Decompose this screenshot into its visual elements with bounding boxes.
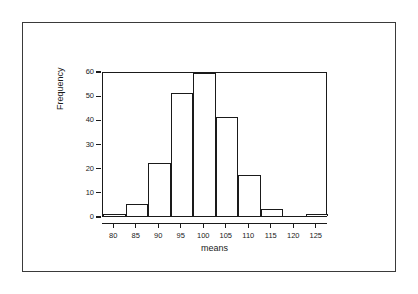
x-axis-tick	[158, 223, 159, 228]
x-axis-tick	[135, 223, 136, 228]
x-axis-tick-label: 85	[132, 231, 140, 240]
histogram-bar	[171, 93, 194, 216]
y-axis-tick-label: 30	[86, 141, 94, 149]
histogram-bars	[103, 73, 326, 216]
histogram-bar	[148, 163, 171, 216]
y-axis-tick-label: 50	[86, 92, 94, 100]
x-axis-tick	[203, 223, 204, 228]
y-axis-tick	[96, 120, 101, 121]
x-axis-tick	[225, 223, 226, 228]
x-axis-tick-label: 90	[154, 231, 162, 240]
x-axis-tick	[113, 223, 114, 228]
y-axis-tick-label: 40	[86, 116, 94, 124]
x-axis-tick-label: 100	[197, 231, 210, 240]
x-axis-tick	[315, 223, 316, 228]
y-axis-tick	[96, 168, 101, 169]
y-axis-tick	[96, 71, 101, 72]
histogram-bar	[261, 209, 284, 216]
histogram-bar	[103, 214, 126, 216]
x-axis-tick	[270, 223, 271, 228]
y-axis-tick	[96, 144, 101, 145]
x-axis-tick	[248, 223, 249, 228]
x-axis-tick-label: 115	[265, 231, 277, 240]
histogram-screenshot: Frequency 0102030405060 means 8085909510…	[0, 0, 418, 294]
x-axis-tick-label: 95	[177, 231, 185, 240]
y-axis-tick	[96, 96, 101, 97]
x-axis-tick	[293, 223, 294, 228]
y-axis-tick-label: 0	[90, 213, 94, 221]
histogram-bar	[306, 214, 329, 216]
histogram-bar	[216, 117, 239, 216]
y-axis-tick-label: 20	[86, 165, 94, 173]
x-axis-tick-label: 105	[219, 231, 232, 240]
x-axis-tick-label: 110	[242, 231, 254, 240]
y-axis-tick-labels: 0102030405060	[68, 0, 94, 294]
x-axis-title: means	[102, 243, 327, 253]
histogram-bar	[126, 204, 149, 216]
plot-area-frame	[102, 72, 327, 217]
x-axis-tick	[180, 223, 181, 228]
histogram-bar	[193, 73, 216, 216]
histogram-bar	[238, 175, 261, 216]
x-axis-tick-label: 120	[287, 231, 300, 240]
y-axis-tick-label: 60	[86, 68, 94, 76]
y-axis-title: Frequency	[55, 67, 65, 110]
y-axis-tick-label: 10	[86, 189, 94, 197]
x-axis-tick-label: 80	[109, 231, 117, 240]
x-axis-tick-label: 125	[309, 231, 322, 240]
y-axis-tick	[96, 192, 101, 193]
y-axis-tick	[96, 216, 101, 217]
